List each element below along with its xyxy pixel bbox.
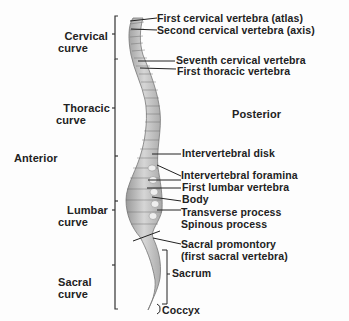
curve-label-line: Lumbar [58, 204, 108, 216]
curve-label-line: curve [58, 216, 108, 228]
label-first-cervical-vertebra: First cervical vertebra (atlas) [157, 13, 303, 24]
sacral-curve-label: Sacral curve [58, 276, 108, 300]
label-spinous-process: Spinous process [181, 219, 267, 230]
anterior-label: Anterior [14, 153, 58, 164]
curve-brackets [112, 16, 118, 309]
lumbar-curve-label: Lumbar curve [58, 204, 108, 228]
label-sacral-promontory: Sacral promontory [181, 239, 276, 250]
label-first-sacral-vertebra: (first sacral vertebra) [181, 251, 288, 262]
spine-shape [126, 18, 162, 310]
label-body: Body [182, 194, 209, 205]
curve-label-line: Sacral [58, 276, 108, 288]
curve-label-line: curve [56, 114, 110, 126]
label-sacrum: Sacrum [172, 268, 211, 279]
label-first-lumbar-vertebra: First lumbar vertebra [182, 182, 289, 193]
label-second-cervical-vertebra: Second cervical vertebra (axis) [157, 25, 315, 36]
curve-label-line: Thoracic [56, 102, 110, 114]
spine-diagram: Cervical curve Thoracic curve Lumbar cur… [0, 0, 349, 321]
thoracic-curve-label: Thoracic curve [56, 102, 110, 126]
cervical-curve-label: Cervical curve [58, 30, 108, 54]
label-intervertebral-foramina: Intervertebral foramina [181, 170, 298, 181]
label-first-thoracic-vertebra: First thoracic vertebra [177, 66, 290, 77]
posterior-label: Posterior [232, 109, 281, 120]
label-transverse-process: Transverse process [181, 207, 281, 218]
curve-label-line: Cervical [58, 30, 108, 42]
curve-label-line: curve [58, 42, 108, 54]
curve-label-line: curve [58, 288, 108, 300]
label-intervertebral-disk: Intervertebral disk [182, 148, 275, 159]
label-coccyx: Coccyx [162, 305, 200, 316]
